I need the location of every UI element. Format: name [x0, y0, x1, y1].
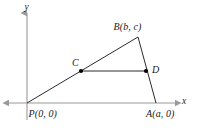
point-p-label: P(0, 0)	[29, 109, 57, 119]
y-axis-label: y	[25, 3, 29, 13]
point-b-label: B(b, c)	[114, 22, 142, 32]
point-d-dot	[144, 69, 148, 73]
point-a-label: A(a, 0)	[146, 109, 174, 119]
point-c-label: C	[72, 58, 79, 68]
point-c-dot	[79, 69, 83, 73]
geometry-figure: y x B(b, c) C D P(0, 0) A(a, 0)	[0, 0, 200, 131]
x-axis-label: x	[182, 97, 186, 107]
point-d-label: D	[152, 65, 159, 75]
